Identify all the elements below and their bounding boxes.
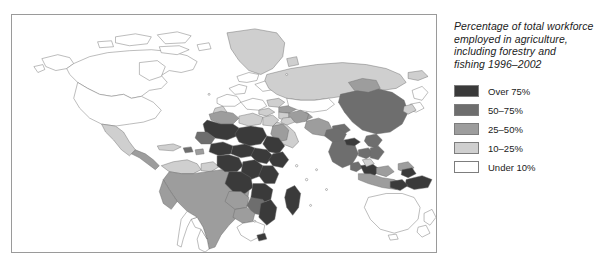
legend-label-25-50: 25–50% [488,124,523,135]
legend-item-50-75: 50–75% [454,101,606,119]
legend-swatch-under-10 [454,161,479,173]
legend-swatch-over-75 [454,85,479,97]
world-map-graphic: .c { stroke:#6b6b6b; stroke-width:0.45; … [12,15,436,252]
agriculture-workforce-map-figure: .c { stroke:#6b6b6b; stroke-width:0.45; … [0,0,613,275]
legend-label-10-25: 10–25% [488,143,523,154]
world-map-panel: .c { stroke:#6b6b6b; stroke-width:0.45; … [11,14,437,253]
legend-swatch-10-25 [454,142,479,154]
legend-panel: Percentage of total workforce employed i… [454,20,606,177]
legend-label-under-10: Under 10% [488,162,536,173]
legend-label-over-75: Over 75% [488,86,530,97]
legend-item-over-75: Over 75% [454,82,606,100]
legend-item-25-50: 25–50% [454,120,606,138]
legend-item-10-25: 10–25% [454,139,606,157]
legend-swatch-50-75 [454,104,479,116]
legend-label-50-75: 50–75% [488,105,523,116]
legend-title: Percentage of total workforce employed i… [454,20,606,70]
legend-item-under-10: Under 10% [454,158,606,176]
legend-list: Over 75% 50–75% 25–50% 10–25% Under 10% [454,82,606,176]
legend-swatch-25-50 [454,123,479,135]
